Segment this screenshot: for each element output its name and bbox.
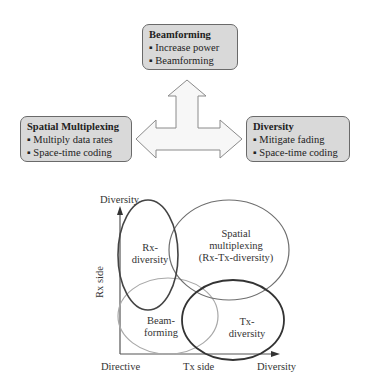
- x-axis-end-label: Diversity: [257, 361, 296, 373]
- diversity-box: Diversity Mitigate fading Space-time cod…: [246, 116, 350, 162]
- diversity-item: Mitigate fading: [253, 133, 343, 146]
- x-axis-arrow-icon: [271, 351, 280, 357]
- diversity-item: Space-time coding: [253, 146, 343, 159]
- x-axis-label: Tx side: [183, 361, 214, 373]
- y-axis-top-label: Diversity: [100, 194, 139, 206]
- tx-diversity-label: Tx- diversity: [222, 316, 272, 340]
- beamforming-title: Beamforming: [149, 28, 231, 41]
- y-axis-label: Rx side: [94, 266, 106, 298]
- spatial-multiplexing-item: Multiply data rates: [27, 133, 125, 146]
- beamforming-item: Increase power: [149, 41, 231, 54]
- three-way-arrow-icon: [136, 80, 242, 158]
- x-axis-origin-label: Directive: [101, 361, 140, 373]
- beamforming-label: Beam- forming: [136, 315, 186, 339]
- beamforming-box: Beamforming Increase power Beamforming: [142, 24, 238, 70]
- spatial-multiplexing-item: Space-time coding: [27, 146, 125, 159]
- beamforming-item: Beamforming: [149, 54, 231, 67]
- rx-diversity-label: Rx- diversity: [128, 242, 172, 266]
- y-axis-arrow-icon: [117, 206, 123, 215]
- spatial-multiplexing-title: Spatial Multiplexing: [27, 120, 125, 133]
- spatial-multiplexing-box: Spatial Multiplexing Multiply data rates…: [20, 116, 132, 162]
- spatial-multiplexing-label: Spatial multiplexing (Rx-Tx-diversity): [190, 228, 282, 264]
- diversity-title: Diversity: [253, 120, 343, 133]
